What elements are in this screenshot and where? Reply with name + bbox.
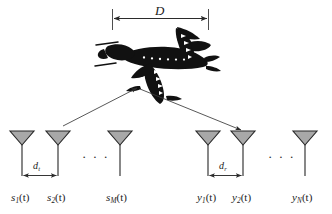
ellipsis-receive: · · ·	[268, 150, 296, 163]
signal-label-txM: sM(t)	[106, 192, 127, 205]
antenna-rxN	[293, 131, 317, 176]
diagram-svg	[0, 0, 332, 214]
signal-label-rx2: y2(t)	[232, 192, 251, 205]
antenna-rx1	[196, 131, 220, 176]
spacing-label-dr-sub: r	[224, 165, 227, 172]
spacing-label-dr: dr	[219, 161, 227, 172]
figure-canvas: D dt dr · · · · · · s1(t) s2(t) sM(t) y1…	[0, 0, 332, 214]
rx2-arg: (t)	[241, 191, 251, 203]
antenna-txM	[108, 131, 132, 176]
rx1-arg: (t)	[206, 191, 216, 203]
airplane-silhouette	[95, 27, 221, 104]
spacing-label-dt-sub: t	[38, 165, 40, 172]
tx1-arg: (t)	[19, 191, 29, 203]
tx2-arg: (t)	[55, 191, 65, 203]
antenna-tx2	[46, 131, 70, 176]
antenna-rx2	[231, 131, 255, 176]
signal-label-rxN: yN(t)	[292, 192, 312, 205]
signal-label-tx1: s1(t)	[11, 192, 29, 205]
rxN-arg: (t)	[302, 191, 312, 203]
signal-label-rx1: y1(t)	[197, 192, 216, 205]
propagation-paths	[63, 88, 241, 130]
aperture-label-D: D	[155, 4, 164, 17]
spacing-label-dt: dt	[33, 161, 40, 172]
txM-arg: (t)	[117, 191, 127, 203]
ellipsis-transmit: · · ·	[82, 150, 110, 163]
antenna-tx1	[10, 131, 34, 176]
signal-label-tx2: s2(t)	[47, 192, 65, 205]
